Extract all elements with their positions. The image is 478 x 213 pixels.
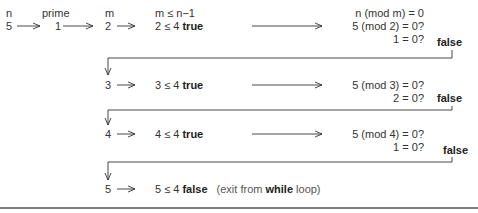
exit-note-keyword: while [266, 183, 294, 195]
iter1-mod-eval: 1 = 0? [330, 33, 424, 45]
iter2-cond-expr: 3 ≤ 4 [155, 79, 179, 91]
header-mod-test: n (mod m) = 0 [330, 7, 424, 19]
iter3-cond-result: true [182, 128, 203, 140]
iter1-cond-expr: 2 ≤ 4 [155, 20, 179, 32]
iter3-mod-expr: 5 (mod 4) = 0? [330, 128, 424, 140]
iter3-cond-expr: 4 ≤ 4 [155, 128, 179, 140]
iter3-cond: 4 ≤ 4 true [155, 128, 203, 140]
iter3-m: 4 [105, 128, 111, 140]
iter1-cond: 2 ≤ 4 true [155, 20, 203, 32]
iter2-mod-expr: 5 (mod 3) = 0? [330, 79, 424, 91]
initial-n: 5 [6, 20, 12, 32]
iter3-mod-eval: 1 = 0? [330, 141, 424, 153]
iter1-m: 2 [105, 20, 111, 32]
exit-note-post: loop) [293, 183, 321, 195]
initial-prime: 1 [55, 20, 61, 32]
iter2-cond: 3 ≤ 4 true [155, 79, 203, 91]
iter2-cond-result: true [182, 79, 203, 91]
iter4-cond: 5 ≤ 4 false (exit from while loop) [155, 183, 321, 195]
exit-note: (exit from while loop) [217, 183, 321, 195]
header-prime: prime [42, 7, 70, 19]
iter4-cond-result: false [182, 183, 207, 195]
header-n: n [6, 7, 12, 19]
iter1-cond-result: true [182, 20, 203, 32]
header-condition: m ≤ n−1 [155, 7, 195, 19]
iter3-mod-result: false [443, 144, 468, 156]
iter1-mod-result: false [437, 36, 462, 48]
iter4-cond-expr: 5 ≤ 4 [155, 183, 179, 195]
header-m: m [105, 7, 114, 19]
iter4-m: 5 [105, 183, 111, 195]
iter1-mod-expr: 5 (mod 2) = 0? [330, 20, 424, 32]
iter2-mod-eval: 2 = 0? [330, 92, 424, 104]
iter2-m: 3 [105, 79, 111, 91]
iter2-mod-result: false [437, 92, 462, 104]
exit-note-pre: (exit from [217, 183, 266, 195]
